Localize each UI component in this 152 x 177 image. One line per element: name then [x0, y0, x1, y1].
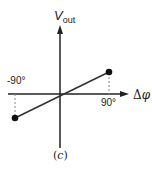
x-axis-label-phi: φ [142, 88, 150, 102]
characteristic-line [15, 72, 109, 118]
x-axis-label: Δφ [133, 89, 150, 101]
x-axis-label-delta: Δ [133, 88, 142, 102]
y-axis-arrowhead-icon [57, 25, 63, 34]
endpoint-dot-positive [106, 69, 113, 76]
tick-label-negative-90: -90° [7, 76, 25, 86]
y-axis [57, 25, 63, 148]
y-axis-label-sub: out [63, 15, 76, 25]
y-axis-label-main: V [54, 8, 63, 23]
endpoint-dot-negative [12, 115, 19, 122]
y-axis-label: Vout [54, 9, 75, 25]
x-axis-arrowhead-icon [120, 91, 129, 97]
figure-caption: (c) [53, 150, 68, 161]
caption-close: ) [63, 149, 67, 162]
tick-label-positive-90: 90° [101, 98, 116, 108]
phase-detector-characteristic [0, 0, 152, 177]
